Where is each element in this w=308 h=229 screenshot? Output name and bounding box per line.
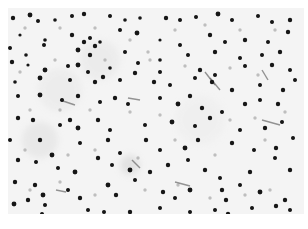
nucleus — [230, 18, 234, 22]
nucleus — [143, 123, 147, 127]
nucleus — [16, 94, 20, 98]
nucleus — [273, 156, 277, 160]
nucleus — [78, 196, 82, 200]
nucleus — [218, 176, 222, 180]
nucleus — [158, 38, 161, 41]
nucleus — [238, 183, 242, 187]
nucleus — [42, 43, 46, 47]
nucleus — [186, 53, 190, 57]
nucleus — [56, 166, 60, 170]
nucleus — [93, 80, 97, 84]
nucleus — [118, 28, 122, 32]
nucleus — [70, 14, 74, 18]
nucleus — [10, 60, 14, 64]
nucleus — [78, 141, 82, 145]
nucleus — [250, 206, 254, 210]
nucleus — [123, 50, 127, 54]
nucleus — [128, 168, 133, 173]
nucleus — [38, 76, 43, 81]
nucleus — [161, 190, 165, 194]
faint-cell — [53, 58, 56, 61]
nucleus — [220, 188, 224, 192]
nucleus — [68, 118, 72, 122]
nucleus — [88, 53, 92, 57]
nucleus — [288, 168, 292, 172]
nucleus — [98, 40, 102, 44]
faint-cell — [158, 113, 161, 116]
nucleus — [34, 160, 38, 164]
faint-cell — [66, 153, 69, 156]
nucleus — [258, 190, 263, 195]
nucleus — [196, 138, 200, 142]
faint-cell — [93, 26, 96, 29]
nucleus — [106, 183, 111, 188]
nucleus — [270, 20, 274, 24]
nucleus — [101, 75, 105, 79]
faint-cell — [228, 66, 231, 69]
faint-cell — [23, 26, 26, 29]
faint-cell — [146, 50, 149, 53]
nucleus — [68, 78, 72, 82]
nucleus — [60, 98, 64, 102]
nucleus — [274, 146, 278, 150]
nucleus — [230, 141, 234, 145]
nucleus — [76, 126, 81, 131]
nucleus — [102, 210, 106, 214]
nucleus — [158, 58, 162, 62]
nucleus — [110, 163, 114, 167]
nucleus — [138, 16, 142, 20]
nucleus — [193, 124, 197, 128]
nucleus — [208, 116, 212, 120]
nucleus — [41, 193, 46, 198]
faint-cell — [58, 180, 61, 183]
nucleus — [178, 43, 182, 47]
nucleus — [58, 123, 62, 127]
nucleus — [194, 15, 198, 19]
nucleus — [158, 206, 162, 210]
nucleus — [183, 146, 188, 151]
nucleus — [176, 102, 181, 107]
nucleus — [96, 118, 100, 122]
faint-cell — [208, 196, 211, 199]
nucleus — [12, 202, 17, 207]
nucleus — [280, 120, 284, 124]
nucleus — [243, 38, 247, 42]
nucleus — [213, 50, 217, 54]
nucleus — [86, 70, 90, 74]
faint-cell — [256, 73, 259, 76]
nucleus — [24, 53, 28, 57]
nucleus — [76, 94, 80, 98]
faint-cell — [268, 188, 271, 191]
nucleus — [188, 94, 192, 98]
faint-cell — [173, 138, 176, 141]
nucleus — [188, 210, 192, 214]
nucleus — [210, 80, 214, 84]
nucleus — [31, 118, 35, 122]
nucleus — [288, 68, 292, 72]
nucleus — [82, 12, 86, 16]
faint-cell — [228, 118, 231, 121]
nucleus — [133, 178, 137, 182]
nucleus — [16, 116, 20, 120]
nucleus — [36, 19, 40, 23]
faint-cell — [93, 148, 96, 151]
nucleus — [133, 71, 137, 75]
nucleus — [256, 14, 260, 18]
nucleus — [208, 33, 212, 37]
nucleus — [98, 100, 102, 104]
nucleus — [216, 12, 221, 17]
faint-cell — [273, 28, 276, 31]
nucleus — [86, 208, 90, 212]
nucleus — [123, 18, 127, 22]
nucleus — [96, 156, 100, 160]
nucleus — [193, 76, 197, 80]
nucleus — [38, 138, 42, 142]
nucleus — [114, 193, 118, 197]
faint-cell — [243, 193, 246, 196]
nucleus — [276, 102, 280, 106]
nucleus — [152, 80, 156, 84]
nucleus — [168, 83, 172, 87]
nucleus — [238, 128, 242, 132]
nucleus — [43, 203, 47, 207]
nucleus — [53, 18, 57, 22]
